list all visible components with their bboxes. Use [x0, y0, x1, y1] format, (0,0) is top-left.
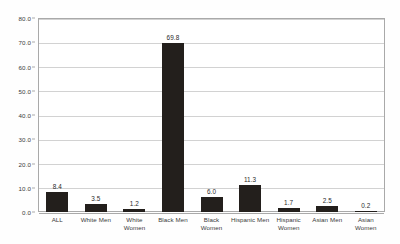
y-tick-mark — [32, 163, 35, 164]
y-axis: 0.010.020.030.040.050.060.070.080.0 — [0, 18, 35, 212]
y-tick-label: 80.0 — [19, 15, 31, 22]
bar-value-label: 1.7 — [284, 199, 293, 206]
x-tick-slot: Black Men — [154, 213, 193, 243]
x-tick-slot: ALL — [38, 213, 77, 243]
bar-slot: 8.4 — [38, 18, 77, 212]
x-tick-label: ALL — [38, 216, 77, 224]
x-tick-label: Black Women — [192, 216, 231, 232]
bar[interactable]: 1.7 — [278, 208, 300, 212]
y-tick-mark — [32, 90, 35, 91]
bar-slot: 1.7 — [269, 18, 308, 212]
x-tick-slot: Asian Men — [308, 213, 347, 243]
bar-slot: 0.2 — [347, 18, 386, 212]
bar-value-label: 8.4 — [53, 183, 62, 190]
bar-slot: 11.3 — [231, 18, 270, 212]
bar[interactable]: 1.2 — [123, 209, 145, 212]
bar[interactable]: 69.8 — [162, 43, 184, 212]
x-tick-slot: WhiteWomen — [115, 213, 154, 243]
y-tick-label: 20.0 — [19, 160, 31, 167]
bars-container: 8.43.51.269.86.011.31.72.50.2 — [38, 18, 385, 212]
y-tick-label: 40.0 — [19, 112, 31, 119]
x-tick-label: White Men — [77, 216, 116, 224]
bar-value-label: 11.3 — [244, 176, 256, 183]
bar[interactable]: 3.5 — [85, 204, 107, 212]
bar-value-label: 1.2 — [130, 200, 139, 207]
y-tick-label: 50.0 — [19, 87, 31, 94]
x-tick-label: WhiteWomen — [115, 216, 154, 232]
bar-chart: 0.010.020.030.040.050.060.070.080.0 8.43… — [0, 0, 400, 244]
y-tick-mark — [32, 18, 35, 19]
x-tick-label: HispanicWomen — [269, 216, 308, 232]
y-tick-label: 0.0 — [22, 209, 31, 216]
x-tick-label: Black Men — [154, 216, 193, 224]
y-tick-label: 30.0 — [19, 136, 31, 143]
x-tick-label: Hispanic Men — [231, 216, 270, 224]
x-tick-slot: HispanicWomen — [269, 213, 308, 243]
bar-slot: 69.8 — [154, 18, 193, 212]
bar-slot: 6.0 — [192, 18, 231, 212]
x-tick-label: Asian Men — [308, 216, 347, 224]
y-tick-mark — [32, 139, 35, 140]
x-tick-slot: Hispanic Men — [231, 213, 270, 243]
bar[interactable]: 0.2 — [355, 211, 377, 213]
x-tick-slot: Asian Women — [347, 213, 386, 243]
bar-slot: 3.5 — [77, 18, 116, 212]
x-tick-label: Asian Women — [347, 216, 386, 232]
bar-value-label: 2.5 — [323, 197, 332, 204]
x-axis: ALLWhite MenWhiteWomenBlack MenBlack Wom… — [38, 213, 385, 243]
y-tick-mark — [32, 187, 35, 188]
y-tick-label: 60.0 — [19, 63, 31, 70]
bar[interactable]: 6.0 — [201, 197, 223, 212]
bar-slot: 1.2 — [115, 18, 154, 212]
y-tick-mark — [32, 212, 35, 213]
bar-value-label: 3.5 — [91, 195, 100, 202]
bar-slot: 2.5 — [308, 18, 347, 212]
bar[interactable]: 8.4 — [46, 192, 68, 212]
y-tick-mark — [32, 66, 35, 67]
y-tick-label: 10.0 — [19, 184, 31, 191]
y-tick-label: 70.0 — [19, 39, 31, 46]
y-tick-mark — [32, 42, 35, 43]
x-tick-slot: White Men — [77, 213, 116, 243]
bar[interactable]: 2.5 — [316, 206, 338, 212]
x-tick-slot: Black Women — [192, 213, 231, 243]
y-tick-mark — [32, 115, 35, 116]
bar-value-label: 0.2 — [361, 202, 370, 209]
bar[interactable]: 11.3 — [239, 185, 261, 212]
bar-value-label: 69.8 — [167, 34, 180, 41]
bar-value-label: 6.0 — [207, 188, 216, 195]
